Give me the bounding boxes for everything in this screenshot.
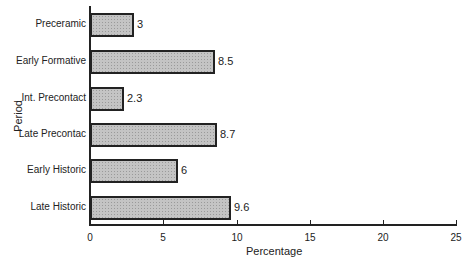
x-tick	[163, 220, 164, 226]
y-axis	[89, 6, 91, 226]
value-label: 8.5	[218, 55, 233, 67]
bar-chart: Period Preceramic3Early Formative8.5Int.…	[0, 0, 471, 270]
bar	[90, 87, 124, 111]
bar	[90, 50, 215, 74]
category-label: Late Historic	[30, 201, 86, 212]
x-tick	[90, 220, 91, 226]
x-tick-label: 15	[304, 232, 315, 243]
value-label: 6	[181, 164, 187, 176]
x-axis	[89, 224, 457, 226]
x-tick	[456, 220, 457, 226]
x-tick-label: 25	[450, 232, 461, 243]
x-tick-label: 0	[87, 232, 93, 243]
category-label: Early Historic	[27, 164, 86, 175]
bar	[90, 13, 134, 37]
bar	[90, 123, 217, 147]
x-tick	[310, 220, 311, 226]
x-tick-label: 5	[160, 232, 166, 243]
value-label: 2.3	[127, 92, 142, 104]
bar	[90, 159, 178, 183]
value-label: 3	[137, 18, 143, 30]
category-label: Int. Precontact	[22, 92, 86, 103]
bar	[90, 196, 231, 220]
value-label: 8.7	[220, 128, 235, 140]
x-tick-label: 20	[377, 232, 388, 243]
category-label: Preceramic	[35, 18, 86, 29]
category-label: Early Formative	[16, 55, 86, 66]
x-axis-label: Percentage	[246, 245, 302, 257]
x-tick	[237, 220, 238, 226]
x-tick-label: 10	[231, 232, 242, 243]
x-tick	[383, 220, 384, 226]
value-label: 9.6	[234, 201, 249, 213]
category-label: Late Precontac	[19, 128, 86, 139]
